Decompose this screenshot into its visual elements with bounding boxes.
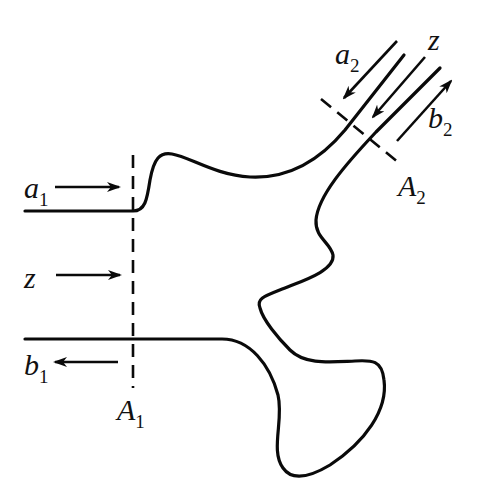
label-a2: a2: [335, 37, 360, 76]
two-port-network-diagram: a1 z b1 A1 a2 z b2 A2: [0, 0, 480, 491]
label-A2: A2: [396, 169, 426, 208]
label-b1: b1: [24, 348, 49, 387]
label-z-port2: z: [427, 23, 440, 56]
label-A1: A1: [115, 393, 145, 432]
lower-boundary-wall: [25, 68, 440, 476]
label-b2: b2: [428, 101, 453, 140]
label-a1: a1: [24, 171, 49, 210]
label-z-port1: z: [23, 261, 36, 294]
